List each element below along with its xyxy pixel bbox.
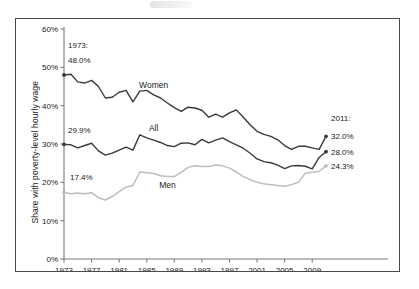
y-tick-label: 40% — [42, 102, 58, 111]
x-tick-label: 1981 — [110, 266, 128, 271]
x-tick-label: 1997 — [221, 266, 239, 271]
y-tick-label: 20% — [42, 178, 58, 187]
annotation-end-year: 2011: — [331, 114, 350, 123]
series-line-women — [64, 74, 326, 149]
annotation-start-women: 48.0% — [68, 56, 91, 65]
x-tick-label: 1993 — [193, 266, 211, 271]
y-tick-label: 30% — [42, 140, 58, 149]
y-tick-label: 60% — [42, 25, 58, 34]
y-tick-label: 50% — [42, 63, 58, 72]
x-tick-label: 1989 — [165, 266, 183, 271]
scan-artifact — [150, 1, 192, 8]
annotation-end-women: 32.0% — [331, 132, 354, 141]
line-chart: 0%10%20%30%40%50%60%19731977198119851989… — [16, 19, 399, 271]
x-tick-label: 2001 — [248, 266, 266, 271]
series-end-marker-men — [324, 164, 328, 168]
x-tick-label: 1985 — [138, 266, 156, 271]
series-label-men: Men — [159, 180, 176, 190]
annotation-start-year: 1973: — [68, 41, 88, 50]
annotation-end-all: 28.0% — [331, 148, 354, 157]
x-tick-label: 2009 — [303, 266, 321, 271]
x-tick-label: 1977 — [83, 266, 101, 271]
x-tick-label: 1973 — [55, 266, 73, 271]
series-start-marker-men — [62, 190, 66, 194]
series-line-men — [64, 165, 326, 200]
series-end-marker-all — [324, 150, 328, 154]
chart-screenshot: Share with poverty-level hourly wage 0%1… — [0, 0, 419, 289]
series-end-marker-women — [324, 134, 328, 138]
annotation-start-men: 17.4% — [70, 173, 93, 182]
series-label-all: All — [149, 123, 159, 133]
annotation-end-men: 24.3% — [331, 162, 354, 171]
series-start-marker-women — [62, 73, 66, 77]
series-start-marker-all — [62, 142, 66, 146]
series-label-women: Women — [139, 80, 168, 90]
chart-frame: Share with poverty-level hourly wage 0%1… — [15, 18, 400, 272]
y-tick-label: 0% — [46, 255, 58, 264]
series-line-all — [64, 135, 326, 169]
x-tick-label: 2005 — [276, 266, 294, 271]
y-tick-label: 10% — [42, 217, 58, 226]
annotation-start-all: 29.9% — [68, 126, 91, 135]
